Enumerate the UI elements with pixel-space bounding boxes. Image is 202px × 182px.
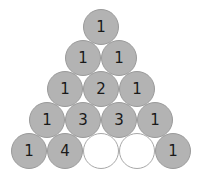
pascal-triangle: 1 1 1 1 2 1 1 3 3 1 1 4 1 bbox=[0, 0, 202, 182]
cell-r4-c2-blank[interactable] bbox=[83, 133, 119, 169]
cell-r4-c3-blank[interactable] bbox=[119, 133, 155, 169]
cell-r4-c0: 1 bbox=[11, 133, 47, 169]
cell-r4-c1: 4 bbox=[47, 133, 83, 169]
cell-r4-c4: 1 bbox=[155, 133, 191, 169]
